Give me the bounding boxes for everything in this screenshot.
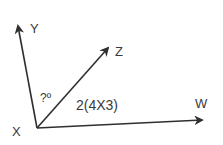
label-w: W <box>195 96 208 111</box>
label-y: Y <box>30 21 39 36</box>
ray-xw <box>37 120 202 128</box>
unknown-angle-label: ?º <box>40 91 52 105</box>
label-z: Z <box>115 44 123 59</box>
ray-xz <box>37 48 108 128</box>
label-x: X <box>12 124 21 139</box>
angle-diagram: Y Z W X ?º 2(4X3) <box>0 0 223 145</box>
ray-xy <box>18 26 37 128</box>
known-angle-label: 2(4X3) <box>76 97 118 113</box>
